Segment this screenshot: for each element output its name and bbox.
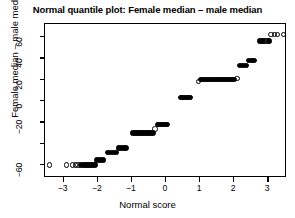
x-axis-tick xyxy=(131,177,132,182)
normal-quantile-plot: Normal quantile plot: Female median – ma… xyxy=(0,0,295,218)
data-point xyxy=(251,58,256,63)
data-point xyxy=(243,63,248,68)
x-axis-tick-label: −3 xyxy=(50,183,76,193)
data-point xyxy=(267,38,272,43)
data-point xyxy=(188,95,193,100)
data-point xyxy=(92,162,97,167)
data-point xyxy=(234,76,239,81)
y-axis-tick-label: 20 xyxy=(0,74,38,84)
x-axis-tick-label: −2 xyxy=(84,183,110,193)
y-axis-tick-label: −60 xyxy=(0,159,38,169)
data-point xyxy=(101,157,106,162)
y-axis-tick-label: 60 xyxy=(0,31,38,41)
x-axis-tick-label: 0 xyxy=(152,183,178,193)
x-axis-title: Normal score xyxy=(0,199,295,210)
y-axis-tick-label: 40 xyxy=(0,52,38,62)
data-point xyxy=(165,122,170,127)
x-axis-tick xyxy=(199,177,200,182)
x-axis-tick xyxy=(267,177,268,182)
plot-area-frame xyxy=(44,23,286,177)
data-point xyxy=(64,162,69,167)
x-axis-tick-label: 1 xyxy=(186,183,212,193)
data-point xyxy=(281,32,285,37)
data-point xyxy=(47,162,52,167)
y-axis-tick-label: −20 xyxy=(0,116,38,126)
data-points-layer xyxy=(45,24,285,176)
x-axis-tick xyxy=(233,177,234,182)
x-axis-tick-label: 3 xyxy=(254,183,280,193)
x-axis-tick-label: 2 xyxy=(220,183,246,193)
data-point xyxy=(275,32,280,37)
x-axis-tick xyxy=(97,177,98,182)
chart-title: Normal quantile plot: Female median – ma… xyxy=(0,4,295,15)
data-point xyxy=(123,145,128,150)
x-axis-tick xyxy=(63,177,64,182)
x-axis-tick xyxy=(165,177,166,182)
y-axis-tick-label: 0 xyxy=(0,95,38,105)
x-axis-tick-label: −1 xyxy=(118,183,144,193)
